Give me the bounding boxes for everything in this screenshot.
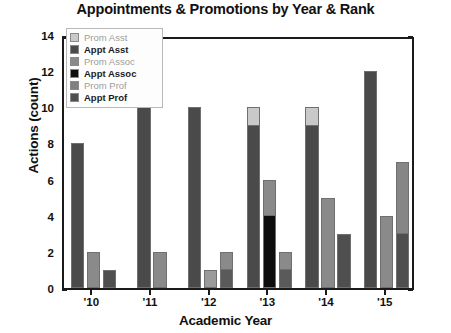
bar[interactable] — [71, 143, 85, 288]
legend-label: Appt Prof — [84, 93, 127, 103]
bar[interactable] — [204, 270, 218, 288]
bar[interactable] — [188, 107, 202, 288]
chart-title: Appointments & Promotions by Year & Rank — [0, 1, 451, 17]
chart-legend: Prom AsstAppt AsstProm AssocAppt AssocPr… — [66, 28, 163, 108]
bar[interactable] — [305, 107, 319, 288]
bar[interactable] — [396, 162, 410, 289]
bar-segment[interactable] — [103, 271, 117, 287]
legend-label: Prom Asst — [84, 33, 127, 43]
x-tick-mark — [149, 290, 151, 295]
x-tick-label: '10 — [69, 296, 113, 308]
bar[interactable] — [364, 71, 378, 288]
bar-segment[interactable] — [364, 72, 378, 287]
bar-group — [364, 39, 410, 288]
bar-segment[interactable] — [321, 199, 335, 287]
legend-swatch-icon — [70, 93, 79, 102]
legend-label: Prom Assoc — [84, 57, 135, 67]
bar[interactable] — [153, 252, 167, 288]
bar-segment[interactable] — [220, 270, 234, 287]
legend-swatch-icon — [70, 57, 79, 66]
bar[interactable] — [380, 216, 394, 288]
y-tick-label: 6 — [22, 176, 54, 188]
x-tick-mark — [90, 290, 92, 295]
y-tick-label: 12 — [22, 67, 54, 79]
bar[interactable] — [337, 234, 351, 288]
x-tick-label: '13 — [245, 296, 289, 308]
bar-segment[interactable] — [279, 253, 293, 270]
legend-swatch-icon — [70, 81, 79, 90]
bar-segment[interactable] — [87, 253, 101, 287]
bar[interactable] — [87, 252, 101, 288]
y-tick-label: 4 — [22, 212, 54, 224]
bar-segment[interactable] — [396, 163, 410, 234]
legend-label: Appt Assoc — [84, 69, 136, 79]
x-tick-mark — [325, 290, 327, 295]
bar-group — [247, 39, 293, 288]
bar-segment[interactable] — [247, 108, 261, 126]
x-axis-title: Academic Year — [0, 313, 451, 328]
bar-segment[interactable] — [188, 108, 202, 287]
bar-segment[interactable] — [337, 235, 351, 287]
legend-label: Prom Prof — [84, 81, 127, 91]
bar-group — [305, 39, 351, 288]
x-tick-mark — [208, 290, 210, 295]
bar[interactable] — [103, 270, 117, 288]
bar-segment[interactable] — [153, 253, 167, 287]
x-tick-label: '11 — [128, 296, 172, 308]
bar-segment[interactable] — [263, 181, 277, 216]
bar-segment[interactable] — [71, 144, 85, 287]
y-axis-title: Actions (count) — [26, 31, 41, 221]
x-tick-mark — [266, 290, 268, 295]
bar-segment[interactable] — [305, 108, 319, 126]
x-tick-mark — [384, 290, 386, 295]
legend-item[interactable]: Prom Asst — [70, 32, 158, 43]
legend-item[interactable]: Appt Assoc — [70, 68, 158, 79]
bar[interactable] — [321, 198, 335, 288]
bar[interactable] — [220, 252, 234, 288]
bar[interactable] — [279, 252, 293, 288]
x-tick-label: '15 — [363, 296, 407, 308]
legend-swatch-icon — [70, 69, 79, 78]
bar[interactable] — [263, 180, 277, 288]
y-tick-label: 8 — [22, 139, 54, 151]
bar-segment[interactable] — [279, 270, 293, 287]
y-tick-label: 2 — [22, 248, 54, 260]
legend-swatch-icon — [70, 33, 79, 42]
bar[interactable] — [247, 107, 261, 288]
legend-swatch-icon — [70, 45, 79, 54]
legend-item[interactable]: Prom Assoc — [70, 56, 158, 67]
legend-label: Appt Asst — [84, 45, 129, 55]
bar-segment[interactable] — [137, 108, 151, 287]
bar-segment[interactable] — [263, 216, 277, 287]
bar-segment[interactable] — [305, 126, 319, 287]
bar-group — [188, 39, 234, 288]
legend-item[interactable]: Appt Prof — [70, 92, 158, 103]
x-tick-label: '14 — [304, 296, 348, 308]
bar-segment[interactable] — [247, 126, 261, 287]
y-tick-label: 10 — [22, 103, 54, 115]
legend-item[interactable]: Appt Asst — [70, 44, 158, 55]
bar-segment[interactable] — [204, 271, 218, 287]
bar-segment[interactable] — [220, 253, 234, 270]
y-tick-label: 14 — [22, 31, 54, 43]
bar-segment[interactable] — [380, 217, 394, 287]
y-tick-label: 0 — [22, 284, 54, 296]
legend-item[interactable]: Prom Prof — [70, 80, 158, 91]
bar-segment[interactable] — [396, 234, 410, 287]
x-tick-label: '12 — [187, 296, 231, 308]
bar[interactable] — [137, 107, 151, 288]
chart-container: Appointments & Promotions by Year & Rank… — [0, 0, 451, 333]
